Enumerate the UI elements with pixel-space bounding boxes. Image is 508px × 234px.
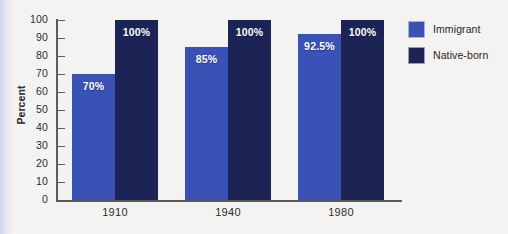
y-axis-tick	[58, 146, 65, 147]
legend-swatch-native-born-icon	[408, 47, 425, 64]
y-axis-tick	[58, 110, 65, 111]
bar-value-label: 100%	[228, 26, 271, 38]
legend-item-native-born[interactable]: Native-born	[408, 44, 508, 66]
y-axis-tick-label: 90	[18, 31, 48, 43]
y-axis-tick-label: 100	[18, 13, 48, 25]
y-axis-tick-label: 20	[18, 157, 48, 169]
bar-immigrant-1910[interactable]: 70%	[72, 74, 115, 200]
y-axis-tick	[58, 128, 65, 129]
legend-item-immigrant[interactable]: Immigrant	[408, 18, 508, 40]
chart-page: Percent 0102030405060708090100 70%100%85…	[0, 0, 508, 234]
x-axis-label-1910: 1910	[75, 206, 155, 218]
y-axis-tick-label: 30	[18, 139, 48, 151]
bar-immigrant-1940[interactable]: 85%	[185, 47, 228, 200]
y-axis-tick-label: 50	[18, 103, 48, 115]
x-axis-label-1980: 1980	[301, 206, 381, 218]
chart-legend: Immigrant Native-born	[408, 18, 508, 70]
y-axis-tick	[58, 182, 65, 183]
bar-value-label: 100%	[115, 26, 158, 38]
bar-value-label: 100%	[341, 26, 384, 38]
bar-value-label: 92.5%	[298, 40, 341, 52]
y-axis-tick-label: 70	[18, 67, 48, 79]
y-axis-tick-label: 10	[18, 175, 48, 187]
y-axis-tick	[58, 200, 65, 201]
y-axis-tick-label: 80	[18, 49, 48, 61]
bar-native-born-1940[interactable]: 100%	[228, 20, 271, 200]
x-axis-line	[56, 200, 402, 202]
y-axis-tick	[58, 164, 65, 165]
y-axis-tick	[58, 92, 65, 93]
bar-value-label: 70%	[72, 80, 115, 92]
y-axis-tick-label: 40	[18, 121, 48, 133]
legend-label-native-born: Native-born	[433, 49, 488, 61]
bar-immigrant-1980[interactable]: 92.5%	[298, 34, 341, 201]
y-axis-tick-label: 0	[18, 193, 48, 205]
bar-native-born-1910[interactable]: 100%	[115, 20, 158, 200]
y-axis-tick	[58, 74, 65, 75]
y-axis-tick	[58, 38, 65, 39]
bar-native-born-1980[interactable]: 100%	[341, 20, 384, 200]
legend-swatch-immigrant-icon	[408, 21, 425, 38]
legend-label-immigrant: Immigrant	[433, 23, 481, 35]
y-axis-tick-label: 60	[18, 85, 48, 97]
y-axis-tick	[58, 56, 65, 57]
bar-value-label: 85%	[185, 53, 228, 65]
x-axis-label-1940: 1940	[188, 206, 268, 218]
y-axis-tick	[58, 20, 65, 21]
